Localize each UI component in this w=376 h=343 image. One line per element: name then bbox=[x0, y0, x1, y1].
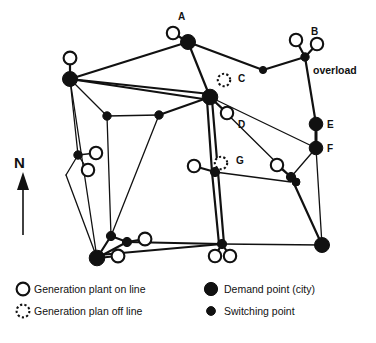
switch-left-upper bbox=[74, 151, 82, 159]
transmission-line bbox=[207, 100, 212, 172]
node-label-B: B bbox=[311, 26, 318, 37]
plant-on-line-icon bbox=[17, 283, 30, 296]
transmission-line bbox=[188, 42, 210, 97]
north-arrow-icon: N bbox=[14, 154, 29, 235]
node-label-G: G bbox=[236, 155, 244, 166]
plant-left-mid-lower bbox=[82, 164, 94, 176]
plant-right-mid bbox=[271, 159, 283, 171]
switch-bl-right bbox=[122, 237, 131, 246]
switch-g-junction bbox=[210, 167, 219, 176]
plant-a bbox=[167, 27, 179, 39]
node-label-F: F bbox=[327, 143, 333, 154]
demand-left-hub bbox=[63, 72, 78, 87]
plant-off-line-icon bbox=[17, 305, 30, 318]
plant-left-mid-upper bbox=[90, 147, 102, 159]
transmission-line bbox=[222, 244, 322, 245]
annotation-overload: overload bbox=[313, 64, 357, 76]
transmission-line bbox=[210, 97, 316, 148]
plant-bl-right bbox=[139, 233, 152, 246]
transmission-line bbox=[70, 42, 188, 79]
node-label-C: C bbox=[238, 73, 245, 84]
node-label-E: E bbox=[327, 119, 334, 130]
transmission-line bbox=[215, 172, 291, 182]
switch-right-lower bbox=[292, 178, 300, 186]
plant-g-left bbox=[188, 160, 200, 172]
transmission-line bbox=[66, 175, 97, 258]
transmission-line bbox=[188, 42, 263, 70]
demand-center-hub bbox=[202, 89, 218, 105]
compass-label: N bbox=[14, 154, 25, 171]
transmission-line bbox=[316, 148, 322, 245]
demand-f bbox=[309, 141, 323, 155]
transmission-line bbox=[107, 115, 159, 116]
legend: Generation plant on line Generation plan… bbox=[17, 282, 315, 317]
transmission-lines-group bbox=[66, 33, 322, 258]
plant-left-hub-top bbox=[64, 52, 77, 65]
legend-label-switch: Switching point bbox=[224, 305, 295, 317]
node-label-A: A bbox=[178, 11, 185, 22]
legend-label-plant-on: Generation plant on line bbox=[34, 283, 146, 295]
switching-point-icon bbox=[207, 307, 216, 316]
switch-mid-center bbox=[155, 111, 163, 119]
switch-bl-upper bbox=[106, 231, 115, 240]
annotations-group: overload bbox=[313, 64, 357, 76]
node-label-D: D bbox=[238, 119, 245, 130]
figure-canvas: ABCDEFG overload N Generation plant on l… bbox=[0, 0, 376, 343]
legend-label-demand: Demand point (city) bbox=[224, 283, 315, 295]
plant-bl-below bbox=[112, 250, 125, 263]
demand-bottom-right bbox=[315, 238, 330, 253]
switch-b-junction bbox=[301, 53, 309, 61]
transmission-line bbox=[291, 177, 322, 245]
compass-arrow-head bbox=[17, 172, 29, 190]
plant-center-below bbox=[221, 107, 233, 119]
online-plants-group bbox=[64, 27, 324, 263]
demand-point-icon bbox=[204, 282, 217, 295]
plant-c-offline bbox=[218, 74, 230, 86]
demand-bottom-left bbox=[89, 250, 105, 266]
transmission-line bbox=[263, 57, 305, 70]
plant-bottom-right-of-pair bbox=[224, 250, 236, 262]
switch-mid-left bbox=[103, 112, 111, 120]
transmission-line bbox=[107, 116, 111, 236]
plant-b-right bbox=[311, 38, 323, 50]
power-grid-network-diagram: ABCDEFG overload N Generation plant on l… bbox=[0, 0, 376, 343]
legend-label-plant-off: Generation plan off line bbox=[34, 305, 143, 317]
transmission-line bbox=[111, 115, 159, 236]
plant-b-left bbox=[290, 34, 302, 46]
demand-a bbox=[181, 35, 196, 50]
switch-top-right-mid bbox=[259, 66, 266, 73]
switch-bottom-center bbox=[217, 239, 226, 248]
plant-bottom-left-of-pair bbox=[209, 250, 221, 262]
transmission-line bbox=[70, 79, 210, 100]
demand-e bbox=[309, 117, 323, 131]
